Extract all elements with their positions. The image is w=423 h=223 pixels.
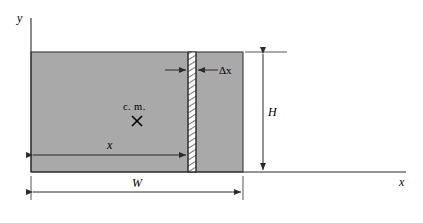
height-dimension: H: [245, 52, 287, 170]
physics-diagram-figure: y x Δx c. m. x H: [0, 0, 423, 223]
height-label: H: [267, 105, 278, 119]
x-axis-label: x: [398, 175, 405, 189]
y-axis-label: y: [16, 11, 23, 25]
differential-strip: [188, 52, 196, 172]
width-label: W: [132, 176, 143, 190]
y-axis: y: [16, 11, 31, 172]
center-of-mass-label: c. m.: [123, 101, 146, 112]
x-axis: x: [31, 172, 406, 189]
strip-hatching: [188, 52, 196, 172]
x-distance-label: x: [106, 138, 113, 152]
diagram-canvas: y x Δx c. m. x H: [0, 0, 423, 223]
delta-x-label: Δx: [219, 64, 232, 76]
width-dimension: W: [31, 176, 243, 200]
